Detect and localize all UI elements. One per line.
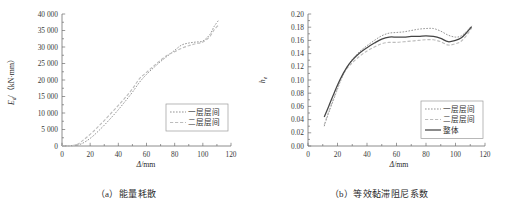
legend-label[interactable]: 二层层间 <box>443 115 475 124</box>
y-tick-label: 0.20 <box>291 10 304 19</box>
y-tick-label: 10 000 <box>38 109 59 118</box>
y-tick-label: 40 000 <box>38 10 59 19</box>
svg-text:Ed/（kN·mm）: Ed/（kN·mm） <box>7 55 17 106</box>
y-tick-label: 25 000 <box>38 59 59 68</box>
chart-svg-a: 05 00010 00015 00020 00025 00030 00035 0… <box>0 0 252 172</box>
y-tick-label: 0.12 <box>291 62 304 71</box>
legend-label[interactable]: 一层层间 <box>443 105 475 114</box>
plot-area-b: 0.000.020.040.060.080.100.120.140.160.18… <box>253 0 505 172</box>
y-tick-label: 0.06 <box>291 102 304 111</box>
y-axis-title-b: he <box>258 76 268 83</box>
panel-caption-a: （a）能量耗散 <box>0 187 252 200</box>
y-tick-label: 0.18 <box>291 23 304 32</box>
y-tick-label: 0.02 <box>291 128 304 137</box>
y-tick-label: 5 000 <box>41 125 58 134</box>
x-tick-label: 80 <box>422 150 430 159</box>
y-tick-label: 20 000 <box>38 76 59 85</box>
x-axis-title-b: Δ/mm <box>389 160 409 169</box>
y-tick-label: 0.16 <box>291 36 304 45</box>
legend-label[interactable]: 一层层间 <box>188 108 220 117</box>
plot-area-a: 05 00010 00015 00020 00025 00030 00035 0… <box>0 0 252 172</box>
legend-b[interactable]: 一层层间二层层间整体 <box>421 101 483 139</box>
x-tick-label: 20 <box>86 150 94 159</box>
y-tick-label: 0.00 <box>291 142 304 151</box>
panel-caption-b: （b）等效黏滞阻尼系数 <box>253 187 505 200</box>
x-tick-label: 100 <box>197 150 208 159</box>
y-tick-label: 35 000 <box>38 26 59 35</box>
x-tick-label: 60 <box>393 150 401 159</box>
y-tick-label: 0.10 <box>291 76 304 85</box>
x-tick-label: 0 <box>60 150 64 159</box>
y-tick-label: 0.14 <box>291 49 304 58</box>
y-tick-label: 15 000 <box>38 92 59 101</box>
panel-damping-coefficient: 0.000.020.040.060.080.100.120.140.160.18… <box>253 0 505 202</box>
y-tick-label: 30 000 <box>38 43 59 52</box>
x-axis-title-a: Δ/mm <box>136 160 156 169</box>
x-tick-label: 0 <box>306 150 310 159</box>
x-tick-label: 40 <box>115 150 123 159</box>
x-tick-label: 40 <box>363 150 371 159</box>
chart-svg-b: 0.000.020.040.060.080.100.120.140.160.18… <box>253 0 505 172</box>
x-tick-label: 20 <box>334 150 342 159</box>
x-tick-label: 60 <box>143 150 151 159</box>
y-tick-label: 0.08 <box>291 89 304 98</box>
y-tick-label: 0.04 <box>291 115 304 124</box>
panel-energy-dissipation: 05 00010 00015 00020 00025 00030 00035 0… <box>0 0 252 202</box>
legend-label[interactable]: 二层层间 <box>188 118 220 127</box>
y-tick-label: 0 <box>54 142 58 151</box>
legend-label[interactable]: 整体 <box>443 125 459 135</box>
figure-container: 05 00010 00015 00020 00025 00030 00035 0… <box>0 0 505 202</box>
x-tick-label: 120 <box>479 150 490 159</box>
svg-text:he: he <box>258 76 268 83</box>
legend-a[interactable]: 一层层间二层层间 <box>166 104 228 131</box>
x-tick-label: 120 <box>225 150 236 159</box>
x-tick-label: 100 <box>450 150 461 159</box>
x-tick-label: 80 <box>171 150 179 159</box>
y-axis-title-a: Ed/（kN·mm） <box>7 55 17 106</box>
